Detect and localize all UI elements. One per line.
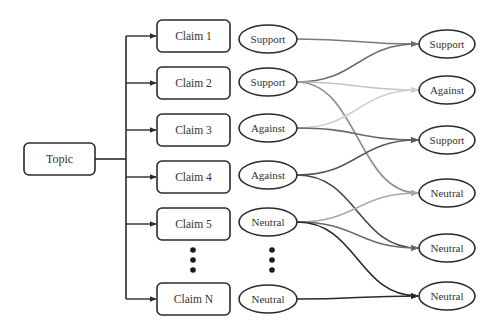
claim-node: Claim 5 [157, 208, 230, 240]
claim-node: Claim N [157, 283, 230, 315]
stance-label: Support [251, 76, 286, 88]
stance-label: Support [251, 33, 286, 45]
stance-node-neutral: Neutral [239, 285, 297, 313]
claim-node: Claim 4 [157, 161, 230, 193]
stance-node-against: Against [239, 114, 297, 142]
stance-edge [297, 82, 418, 193]
stance-edge [297, 44, 418, 82]
claim-label: Claim 2 [175, 77, 212, 89]
claim-node: Claim 2 [157, 67, 230, 99]
stances-ellipsis-dots [269, 247, 275, 273]
target-node-support: Support [419, 126, 475, 154]
claim-label: Claim N [174, 293, 214, 305]
claim-label: Claim 1 [175, 30, 212, 42]
nodes: TopicClaim 1Claim 2Claim 3Claim 4Claim 5… [24, 20, 475, 315]
claim-stance-diagram: TopicClaim 1Claim 2Claim 3Claim 4Claim 5… [0, 0, 499, 333]
target-label: Against [430, 84, 464, 96]
stance-edge [297, 90, 418, 128]
target-node-against: Against [419, 76, 475, 104]
claim-label: Claim 4 [175, 171, 212, 183]
stance-label: Against [251, 122, 285, 134]
stance-label: Neutral [252, 216, 285, 228]
topic-label: Topic [46, 152, 73, 166]
claim-node: Claim 3 [157, 114, 230, 146]
stance-node-support: Support [239, 25, 297, 53]
claim-label: Claim 5 [175, 218, 212, 230]
stance-edge [297, 222, 418, 296]
target-label: Support [430, 38, 465, 50]
stance-edge [297, 193, 418, 222]
claim-label: Claim 3 [175, 124, 212, 136]
target-label: Neutral [431, 242, 464, 254]
stance-edge [297, 222, 418, 248]
stance-edge [297, 39, 418, 44]
stance-node-support: Support [239, 68, 297, 96]
stance-edge [297, 175, 418, 248]
topic-claim-tree [95, 36, 156, 299]
stance-edges [297, 39, 418, 299]
target-node-neutral: Neutral [419, 282, 475, 310]
stance-edge [297, 296, 418, 299]
topic-node: Topic [24, 143, 95, 175]
target-label: Support [430, 134, 465, 146]
target-node-neutral: Neutral [419, 234, 475, 262]
stance-label: Neutral [252, 293, 285, 305]
target-node-support: Support [419, 30, 475, 58]
stance-node-against: Against [239, 161, 297, 189]
claim-node: Claim 1 [157, 20, 230, 52]
target-label: Neutral [431, 290, 464, 302]
target-node-neutral: Neutral [419, 179, 475, 207]
stance-edge [297, 140, 418, 175]
stance-node-neutral: Neutral [239, 208, 297, 236]
target-label: Neutral [431, 187, 464, 199]
claims-ellipsis-dots [190, 247, 196, 273]
stance-label: Against [251, 169, 285, 181]
